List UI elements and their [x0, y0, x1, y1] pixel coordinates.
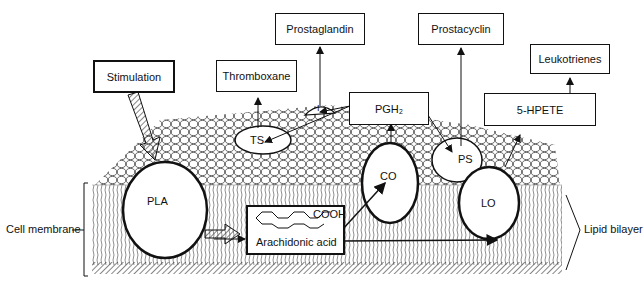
co-enzyme-label: CO: [380, 170, 397, 182]
lo-enzyme-label: LO: [481, 197, 496, 209]
prostaglandin-box: Prostaglandin: [275, 13, 365, 45]
cell-membrane-label: Cell membrane: [6, 223, 81, 235]
arachidonic-acid-label: Arachidonic acid: [256, 236, 337, 248]
leukotrienes-box: Leukotrienes: [530, 44, 610, 74]
i-enzyme-label: I: [317, 103, 320, 113]
pla-enzyme-label: PLA: [147, 195, 168, 207]
thromboxane-box: Thromboxane: [216, 60, 297, 92]
ps-enzyme-label: PS: [458, 153, 473, 165]
pgh2-box: PGH₂: [349, 92, 429, 125]
ts-enzyme-label: TS: [250, 134, 264, 146]
prostacyclin-box: Prostacyclin: [418, 13, 504, 45]
cooh-label: COOH: [313, 208, 346, 220]
lipid-bilayer-label: Lipid bilayer: [584, 223, 643, 235]
hpete-label: 5-HPETE: [517, 103, 563, 117]
stimulation-box: Stimulation: [93, 60, 175, 93]
hpete-box: 5-HPETE: [484, 93, 596, 126]
